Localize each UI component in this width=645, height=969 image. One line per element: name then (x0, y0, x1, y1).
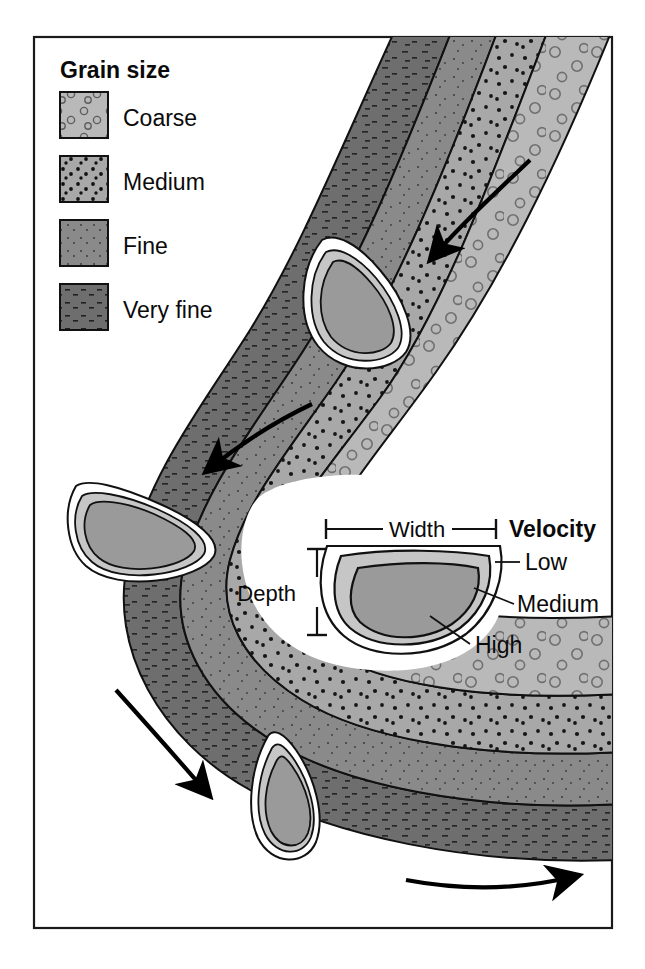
legend-title: Grain size (60, 57, 170, 83)
legend-label-medium: Medium (123, 169, 205, 195)
swatch-very-fine-icon (60, 284, 108, 330)
legend-label-very-fine: Very fine (123, 297, 213, 323)
velocity-label-medium: Medium (517, 591, 599, 617)
swatch-medium-icon (60, 156, 108, 202)
legend-label-fine: Fine (123, 233, 168, 259)
swatch-fine-icon (60, 220, 108, 266)
velocity-label-low: Low (525, 549, 568, 575)
diagram-canvas: Grain size Coarse Medium Fine Very fine (0, 0, 645, 969)
velocity-label-high: High (475, 632, 522, 658)
width-label: Width (389, 517, 445, 542)
swatch-coarse-icon (60, 92, 108, 138)
velocity-title: Velocity (509, 516, 596, 542)
figure-root: Grain size Coarse Medium Fine Very fine (0, 0, 645, 969)
legend-label-coarse: Coarse (123, 105, 197, 131)
depth-label: Depth (237, 581, 296, 606)
